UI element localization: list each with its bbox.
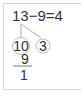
subtraction-result: 1 (17, 68, 31, 82)
decomposition-right: 3 (36, 39, 50, 53)
branch-line-right (21, 24, 41, 38)
subtrahend-under: 9 (18, 52, 32, 66)
